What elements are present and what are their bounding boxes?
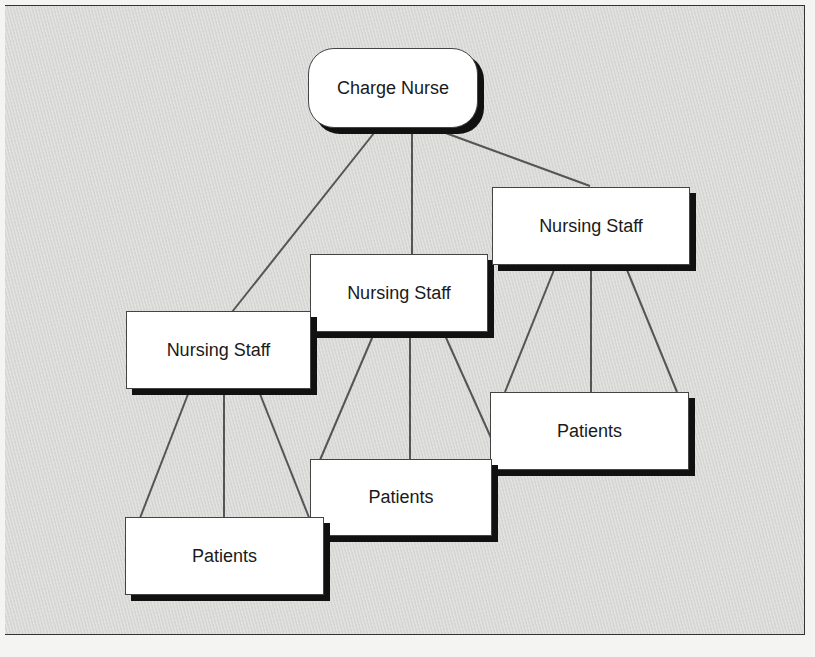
node-nursing-staff-left: Nursing Staff xyxy=(126,311,311,389)
connector-staff-middle-patients xyxy=(320,331,375,460)
connector-staff-left-patients xyxy=(258,389,310,520)
connector-root-staff-right xyxy=(432,128,590,186)
connector-staff-middle-patients xyxy=(443,331,492,440)
connector-staff-right-patients xyxy=(625,265,677,392)
node-label: Nursing Staff xyxy=(347,283,451,304)
node-nursing-staff-right: Nursing Staff xyxy=(492,187,690,265)
connector-staff-left-patients xyxy=(140,389,190,518)
connector-staff-right-patients xyxy=(505,265,556,392)
node-patients-middle: Patients xyxy=(310,459,492,536)
node-nursing-staff-middle: Nursing Staff xyxy=(310,254,488,332)
node-label: Nursing Staff xyxy=(167,340,271,361)
node-patients-right: Patients xyxy=(490,392,689,470)
node-label: Nursing Staff xyxy=(539,216,643,237)
node-patients-left: Patients xyxy=(125,517,324,595)
node-label: Patients xyxy=(557,421,622,442)
node-label: Patients xyxy=(192,546,257,567)
node-label: Patients xyxy=(368,487,433,508)
node-charge-nurse: Charge Nurse xyxy=(308,48,478,128)
node-label: Charge Nurse xyxy=(337,78,449,99)
